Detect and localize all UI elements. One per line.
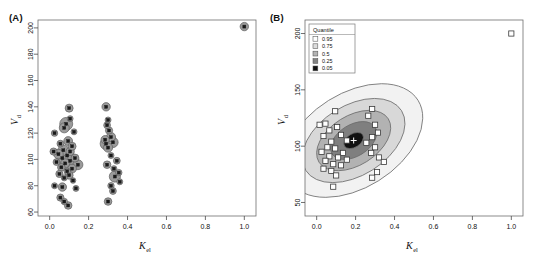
observation-square-marker <box>68 174 71 177</box>
open-square-marker <box>338 163 343 168</box>
observation-square-marker <box>106 163 109 166</box>
open-square-marker <box>366 113 371 118</box>
svg-text:1.0: 1.0 <box>239 223 249 230</box>
panel-a-label: (A) <box>9 12 23 23</box>
legend-label-0-25: 0.25 <box>322 58 333 64</box>
legend-label-0-75: 0.75 <box>322 43 333 49</box>
observation-square-marker <box>107 200 110 203</box>
observation-square-marker <box>67 140 70 143</box>
open-square-marker <box>376 155 381 160</box>
observation-square-marker <box>66 170 69 173</box>
observation-square-marker <box>63 126 66 129</box>
panel-b-legend: Quantile0.950.750.50.250.05 <box>309 24 355 73</box>
svg-text:0.2: 0.2 <box>84 223 94 230</box>
svg-text:0.8: 0.8 <box>201 223 211 230</box>
observation-square-marker <box>115 159 118 162</box>
observation-square-marker <box>107 146 110 149</box>
panel-a-x-axis-title: Kel <box>138 240 151 253</box>
observation-square-marker <box>76 163 79 166</box>
svg-text:140: 140 <box>27 101 34 113</box>
panel-a-canvas: 0.00.20.40.60.81.0 608010012014016018020… <box>0 0 267 259</box>
open-square-marker <box>317 122 322 127</box>
observation-square-marker <box>55 161 58 164</box>
open-square-marker <box>319 149 324 154</box>
svg-text:50: 50 <box>294 198 301 206</box>
open-square-marker <box>344 138 349 143</box>
observation-square-marker <box>73 130 76 133</box>
observation-square-marker <box>71 167 74 170</box>
open-square-marker <box>381 159 386 164</box>
open-square-marker <box>369 150 374 155</box>
open-square-marker <box>344 157 349 162</box>
svg-text:100: 100 <box>294 140 301 152</box>
observation-square-marker <box>106 124 109 127</box>
legend-swatch-0-5 <box>313 51 318 56</box>
panel-b-x-ticks: 0.00.20.40.60.81.0 <box>312 216 516 230</box>
open-square-marker <box>364 140 369 145</box>
observation-square-marker <box>52 150 55 153</box>
svg-text:160: 160 <box>27 75 34 87</box>
open-square-marker <box>370 175 375 180</box>
observation-square-marker <box>73 157 76 160</box>
open-square-marker <box>335 124 340 129</box>
open-square-marker <box>375 130 380 135</box>
svg-text:0.6: 0.6 <box>162 223 172 230</box>
panel-b-x-axis-title: Kel <box>405 240 418 253</box>
open-square-marker <box>329 139 334 144</box>
legend-swatch-0-25 <box>313 59 318 64</box>
panel-a-y-axis-title: Vd <box>9 114 22 125</box>
open-square-marker <box>372 122 377 127</box>
svg-text:0.4: 0.4 <box>123 223 133 230</box>
observation-square-marker <box>72 179 75 182</box>
legend-swatch-0-95 <box>313 36 318 41</box>
observation-square-marker <box>53 184 56 187</box>
open-square-marker <box>335 155 340 160</box>
observation-square-marker <box>111 190 114 193</box>
observation-square-marker <box>64 162 67 165</box>
open-square-marker <box>338 132 343 137</box>
svg-text:200: 200 <box>294 28 301 40</box>
open-square-marker <box>372 145 377 150</box>
observation-square-marker <box>118 180 121 183</box>
panel-b-y-axis-title: Vd <box>276 114 289 125</box>
panel-a-x-ticks: 0.00.20.40.60.81.0 <box>45 216 249 230</box>
open-square-marker <box>327 128 332 133</box>
open-square-marker <box>321 166 326 171</box>
svg-text:0.0: 0.0 <box>45 223 55 230</box>
observation-square-marker <box>112 167 115 170</box>
open-square-marker <box>374 169 379 174</box>
observation-square-marker <box>63 200 66 203</box>
observation-square-marker <box>113 175 116 178</box>
panel-a-data-points <box>50 22 249 209</box>
open-square-marker <box>323 121 328 126</box>
observation-square-marker <box>65 122 68 125</box>
observation-square-marker <box>105 105 108 108</box>
observation-square-marker <box>74 187 77 190</box>
open-square-marker <box>370 135 375 140</box>
open-square-marker <box>329 168 334 173</box>
svg-text:200: 200 <box>27 22 34 34</box>
observation-square-marker <box>104 138 107 141</box>
observation-square-marker <box>243 25 246 28</box>
legend-swatch-0-75 <box>313 44 318 49</box>
observation-square-marker <box>57 153 60 156</box>
observation-square-marker <box>62 149 65 152</box>
open-square-marker <box>325 145 330 150</box>
panel-b-y-ticks: 50100150200 <box>294 28 305 207</box>
open-square-marker <box>323 158 328 163</box>
legend-title: Quantile <box>313 27 334 33</box>
observation-square-marker <box>109 184 112 187</box>
svg-text:180: 180 <box>27 48 34 60</box>
panel-b-label: (B) <box>270 12 284 23</box>
observation-square-marker <box>107 118 110 121</box>
open-square-marker <box>331 184 336 189</box>
legend-swatch-0-05 <box>313 66 318 71</box>
observation-square-marker <box>61 157 64 160</box>
panel-a: 0.00.20.40.60.81.0 608010012014016018020… <box>0 0 267 259</box>
observation-square-marker <box>59 196 62 199</box>
observation-square-marker <box>67 204 70 207</box>
observation-square-marker <box>108 129 111 132</box>
svg-text:0.4: 0.4 <box>390 223 400 230</box>
open-square-marker <box>334 173 339 178</box>
open-square-marker <box>333 109 338 114</box>
